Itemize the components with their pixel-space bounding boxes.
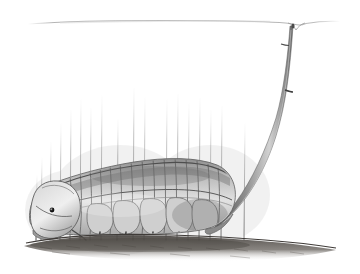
water-surface-highlight	[60, 21, 270, 23]
illustration-canvas	[0, 0, 360, 274]
siphon-tip	[291, 23, 294, 28]
muddy-substrate	[24, 234, 336, 261]
eye	[50, 208, 55, 213]
pencil-illustration	[0, 0, 360, 274]
siphon-joint-ring-lower	[281, 44, 289, 46]
eye-highlight	[51, 209, 52, 210]
cast-shadow	[30, 238, 250, 252]
